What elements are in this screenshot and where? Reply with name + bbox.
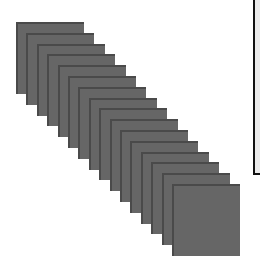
side-panel-frame bbox=[253, 0, 260, 175]
card-stack bbox=[0, 0, 260, 261]
stacked-card bbox=[172, 184, 240, 256]
